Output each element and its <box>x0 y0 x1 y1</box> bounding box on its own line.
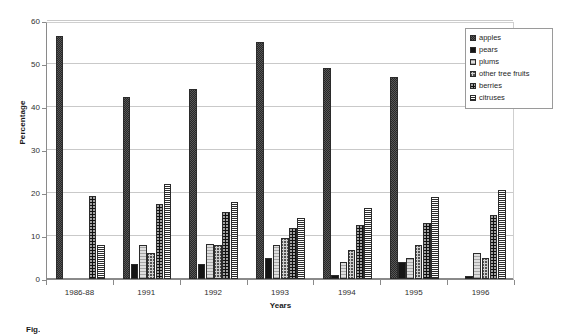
bar-other-tree-fruits-1996 <box>482 258 490 280</box>
legend-label: pears <box>479 46 498 54</box>
x-tick-label: 1991 <box>113 288 180 297</box>
bar-plums-1994 <box>340 262 348 279</box>
bar-pears-1994 <box>331 275 339 279</box>
legend-item-berries[interactable]: berries <box>470 80 549 91</box>
bar-plums-1992 <box>206 244 214 279</box>
bar-apples-1993 <box>256 42 264 279</box>
legend-label: citruses <box>479 94 505 102</box>
x-tick-label: 1994 <box>313 288 380 297</box>
y-tick-label: 0 <box>10 276 40 284</box>
y-tick-label: 60 <box>10 18 40 26</box>
bar-plums-1995 <box>406 258 414 280</box>
legend-swatch-icon <box>470 59 476 65</box>
gridline <box>47 149 513 150</box>
plot-area <box>46 22 514 280</box>
y-tick-label: 40 <box>10 104 40 112</box>
bar-apples-1992 <box>189 89 197 279</box>
bar-citruses-1991 <box>164 184 172 279</box>
x-tick-mark <box>46 280 47 285</box>
legend-swatch-icon <box>470 47 476 53</box>
bar-plums-1996 <box>473 253 481 279</box>
legend-label: berries <box>479 82 502 90</box>
legend-label: plums <box>479 58 499 66</box>
bar-apples-1991 <box>123 97 131 279</box>
x-tick-mark <box>380 280 381 285</box>
legend-item-other-tree-fruits[interactable]: other tree fruits <box>470 68 549 79</box>
legend-item-apples[interactable]: apples <box>470 32 549 43</box>
bar-berries-1992 <box>222 212 230 279</box>
legend-swatch-icon <box>470 83 476 89</box>
bar-berries-1994 <box>356 225 364 279</box>
bar-other-tree-fruits-1993 <box>281 238 289 279</box>
bar-citruses-1993 <box>297 218 305 279</box>
bar-plums-1991 <box>139 245 147 279</box>
bar-pears-1992 <box>198 264 206 279</box>
legend-item-plums[interactable]: plums <box>470 56 549 67</box>
bar-citruses-1994 <box>364 208 372 279</box>
bar-citruses-1995 <box>431 197 439 279</box>
bar-apples-1995 <box>390 77 398 279</box>
gridline <box>47 235 513 236</box>
gridline <box>47 192 513 193</box>
gridline <box>47 63 513 64</box>
bar-berries-1986-88 <box>89 196 97 279</box>
y-tick-label: 30 <box>10 147 40 155</box>
bar-plums-1993 <box>273 245 281 279</box>
bar-citruses-1996 <box>498 190 506 279</box>
x-tick-label: 1996 <box>447 288 514 297</box>
bar-other-tree-fruits-1991 <box>147 253 155 279</box>
bar-chart: Percentage 0102030405060 1986-8819911992… <box>0 0 561 335</box>
legend: applespearsplumsother tree fruitsberries… <box>465 28 553 109</box>
x-tick-mark <box>247 280 248 285</box>
bar-berries-1991 <box>156 204 164 279</box>
x-tick-mark <box>180 280 181 285</box>
legend-label: other tree fruits <box>479 70 529 78</box>
bar-apples-1994 <box>323 68 331 279</box>
legend-swatch-icon <box>470 95 476 101</box>
legend-item-pears[interactable]: pears <box>470 44 549 55</box>
y-tick-label: 20 <box>10 190 40 198</box>
figure-caption: Fig. <box>26 325 40 334</box>
x-tick-label: 1993 <box>247 288 314 297</box>
legend-swatch-icon <box>470 35 476 41</box>
bar-berries-1996 <box>490 215 498 280</box>
legend-swatch-icon <box>470 71 476 77</box>
gridline <box>47 20 513 21</box>
bar-pears-1991 <box>131 264 139 279</box>
x-tick-mark <box>113 280 114 285</box>
x-tick-label: 1995 <box>380 288 447 297</box>
y-tick-label: 50 <box>10 61 40 69</box>
bar-pears-1995 <box>398 262 406 279</box>
bar-pears-1993 <box>265 258 273 280</box>
bar-other-tree-fruits-1992 <box>214 245 222 279</box>
x-tick-label: 1992 <box>180 288 247 297</box>
x-tick-label: 1986-88 <box>46 288 113 297</box>
bar-berries-1993 <box>289 228 297 279</box>
x-axis-title: Years <box>0 301 561 310</box>
x-tick-mark <box>313 280 314 285</box>
legend-label: apples <box>479 34 501 42</box>
y-tick-label: 10 <box>10 233 40 241</box>
gridline <box>47 106 513 107</box>
legend-items: applespearsplumsother tree fruitsberries… <box>470 32 549 103</box>
bar-pears-1996 <box>465 276 473 279</box>
bar-citruses-1986-88 <box>97 245 105 279</box>
bar-other-tree-fruits-1994 <box>348 250 356 279</box>
x-tick-mark <box>514 280 515 285</box>
bar-other-tree-fruits-1995 <box>415 245 423 279</box>
bar-berries-1995 <box>423 223 431 279</box>
bar-citruses-1992 <box>231 202 239 279</box>
x-tick-mark <box>447 280 448 285</box>
legend-item-citruses[interactable]: citruses <box>470 92 549 103</box>
bar-apples-1986-88 <box>56 36 64 279</box>
